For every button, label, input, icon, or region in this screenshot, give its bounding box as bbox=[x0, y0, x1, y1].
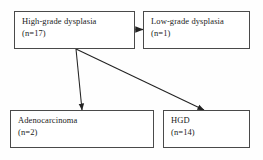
edge-hgd-to-adenocarcinoma bbox=[76, 49, 82, 110]
node-count: (n=1) bbox=[151, 28, 249, 39]
node-label: Low-grade dysplasia bbox=[151, 16, 249, 27]
node-adenocarcinoma: Adenocarcinoma (n=2) bbox=[10, 110, 154, 148]
node-low-grade-dysplasia: Low-grade dysplasia (n=1) bbox=[143, 11, 250, 49]
node-count: (n=2) bbox=[18, 127, 153, 138]
node-count: (n=14) bbox=[171, 127, 249, 138]
node-high-grade-dysplasia: High-grade dysplasia (n=17) bbox=[14, 11, 135, 49]
node-hgd-outcome: HGD (n=14) bbox=[163, 110, 250, 148]
node-label: High-grade dysplasia bbox=[22, 16, 134, 27]
node-count: (n=17) bbox=[22, 28, 134, 39]
edge-hgd-to-hgd-outcome bbox=[76, 49, 204, 110]
flowchart-diagram: High-grade dysplasia (n=17) Low-grade dy… bbox=[0, 0, 263, 160]
node-label: Adenocarcinoma bbox=[18, 115, 153, 126]
node-label: HGD bbox=[171, 115, 249, 126]
